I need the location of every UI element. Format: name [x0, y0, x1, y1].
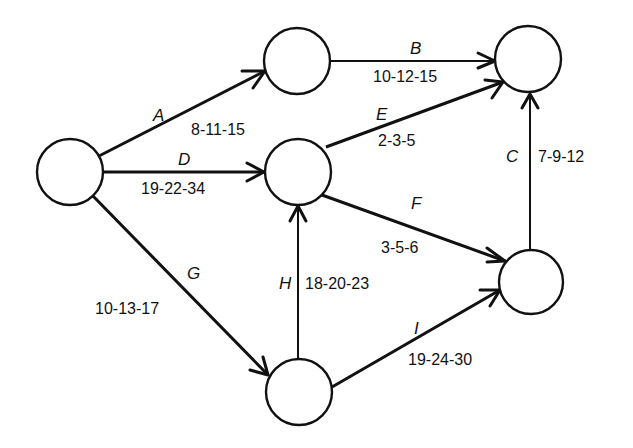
activity-duration-d: 19-22-34	[141, 180, 205, 197]
activity-duration-g: 10-13-17	[95, 300, 159, 317]
edge-b: B 10-12-15	[330, 39, 495, 85]
activity-label-e: E	[376, 105, 388, 124]
activity-duration-i: 19-24-30	[408, 351, 472, 368]
activity-duration-b: 10-12-15	[373, 68, 437, 85]
node-2	[264, 28, 330, 94]
activity-label-b: B	[410, 39, 421, 58]
activity-duration-e: 2-3-5	[378, 132, 415, 149]
edge-g: G 10-13-17	[93, 196, 268, 375]
edge-i: I 19-24-30	[332, 290, 500, 387]
activity-label-d: D	[178, 150, 190, 169]
activity-label-a: A	[152, 106, 164, 125]
node-1-start	[37, 139, 103, 205]
edge-h: H 18-20-23	[279, 206, 369, 359]
edge-e: E 2-3-5	[326, 80, 503, 149]
activity-label-i: I	[414, 319, 419, 338]
activity-duration-a: 8-11-15	[191, 121, 245, 138]
activity-label-h: H	[279, 274, 292, 293]
activity-label-f: F	[411, 194, 423, 213]
edge-d: D 19-22-34	[104, 150, 264, 197]
activity-duration-h: 18-20-23	[305, 275, 369, 292]
node-6	[266, 359, 332, 425]
edge-a: A 8-11-15	[99, 71, 265, 156]
node-4-end	[495, 26, 561, 92]
edge-f: F 3-5-6	[322, 194, 505, 262]
network-diagram: A 8-11-15 B 10-12-15 E 2-3-5 C 7-9-12 D …	[0, 0, 633, 448]
activity-duration-f: 3-5-6	[381, 239, 418, 256]
activity-label-g: G	[187, 264, 200, 283]
activity-duration-c: 7-9-12	[538, 148, 584, 165]
arrowhead-icon	[480, 290, 500, 306]
edge-c: C 7-9-12	[506, 94, 584, 250]
activity-label-c: C	[506, 147, 519, 166]
node-3	[265, 139, 331, 205]
node-5	[499, 250, 563, 314]
